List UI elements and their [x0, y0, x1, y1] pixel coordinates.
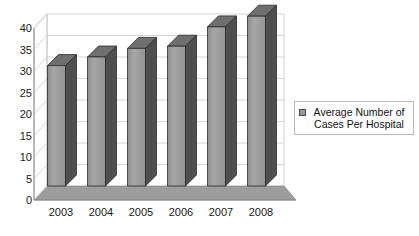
bar-2007-side [226, 16, 237, 186]
y-tick-40: 40 [4, 23, 32, 33]
bar-2007-face [208, 27, 226, 186]
bar-2003[interactable] [48, 55, 77, 186]
bar-2005-side [146, 37, 157, 186]
x-tick-2006: 2006 [161, 206, 201, 218]
x-tick-2004: 2004 [81, 206, 121, 218]
bar-2007[interactable] [208, 16, 237, 186]
bar-2004[interactable] [88, 46, 117, 186]
bar-2005[interactable] [128, 37, 157, 186]
x-tick-2003: 2003 [41, 206, 81, 218]
bar-2005-face [128, 48, 146, 186]
y-tick-0: 0 [4, 195, 32, 205]
x-tick-2005: 2005 [121, 206, 161, 218]
y-tick-15: 15 [4, 131, 32, 141]
bar-2003-face [48, 66, 66, 186]
bar-2006-side [186, 35, 197, 186]
y-tick-35: 35 [4, 45, 32, 55]
bar-2004-face [88, 57, 106, 186]
bar-2006[interactable] [168, 35, 197, 186]
x-tick-2007: 2007 [201, 206, 241, 218]
y-tick-30: 30 [4, 66, 32, 76]
x-tick-2008: 2008 [241, 206, 281, 218]
legend-item-label: Average Number of Cases Per Hospital [309, 106, 409, 130]
y-tick-25: 25 [4, 88, 32, 98]
chart-legend: Average Number of Cases Per Hospital [294, 101, 414, 135]
y-tick-10: 10 [4, 152, 32, 162]
legend-swatch-icon [299, 109, 306, 116]
bar-2003-side [66, 55, 77, 186]
y-axis: 0 5 10 15 20 25 30 35 40 [0, 0, 32, 236]
bar-2004-side [106, 46, 117, 186]
chart-floor [34, 186, 296, 200]
bar-2008-face [248, 16, 266, 186]
y-tick-20: 20 [4, 109, 32, 119]
bar-2006-face [168, 46, 186, 186]
y-tick-5: 5 [4, 174, 32, 184]
legend-item: Average Number of Cases Per Hospital [299, 106, 409, 130]
bar-chart: 0 5 10 15 20 25 30 35 40 2003 2004 2005 … [0, 0, 419, 236]
bar-2008-side [266, 5, 277, 186]
bar-2008[interactable] [248, 5, 277, 186]
